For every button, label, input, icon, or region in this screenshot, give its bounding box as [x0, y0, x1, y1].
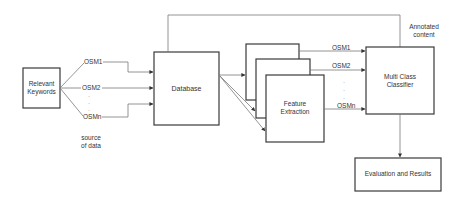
- source-osm1-label: OSM1: [84, 58, 102, 66]
- database-label: Database: [154, 85, 219, 93]
- edge-osm1-database: [103, 62, 153, 72]
- edge-keywords-osm1: [60, 63, 84, 88]
- source-ellipsis-1: ·: [88, 94, 90, 99]
- feature-ellipsis-2: ·: [343, 88, 345, 93]
- feature-osm1-label: OSM1: [332, 44, 350, 52]
- edge-keywords-osmn: [60, 88, 83, 116]
- edge-osmn-database: [102, 104, 153, 117]
- source-ellipsis-2: ·: [88, 101, 90, 106]
- feature-osm2-label: OSM2: [332, 62, 350, 70]
- evaluation-label: Evaluation and Results: [355, 170, 441, 178]
- feature-ellipsis-3: ·: [343, 96, 345, 101]
- feature-extraction-label: Feature Extraction: [270, 100, 320, 116]
- feature-osmn-label: OSMn: [337, 102, 355, 110]
- annotated-content-label: Annotated content: [398, 23, 450, 39]
- keywords-label: Relevant Keywords: [23, 80, 60, 96]
- classifier-label: Multi Class Classifier: [372, 73, 428, 89]
- source-osmn-label: OSMn: [83, 113, 101, 121]
- source-osm2-label: OSM2: [82, 84, 100, 92]
- feature-ellipsis-1: ·: [343, 80, 345, 85]
- source-caption: source of data: [80, 134, 102, 150]
